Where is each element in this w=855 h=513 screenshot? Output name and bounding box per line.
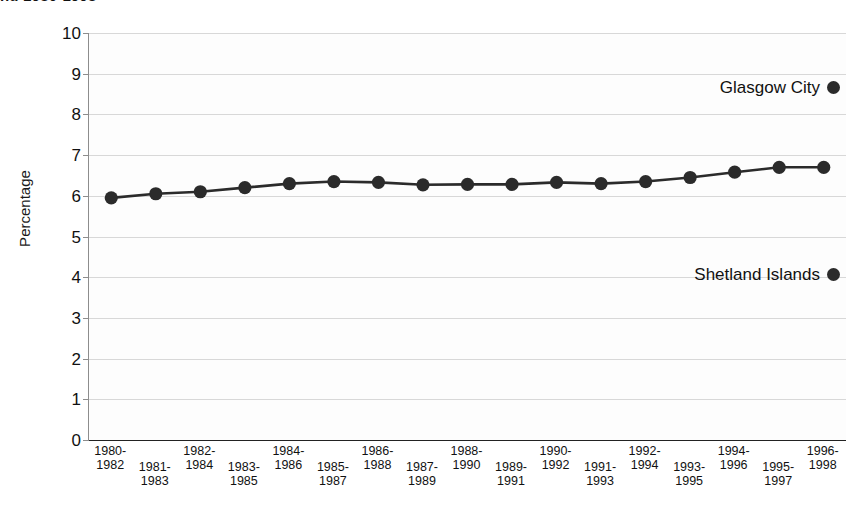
- data-point: [327, 175, 340, 188]
- data-point: [817, 161, 830, 174]
- y-tick-label: 2: [37, 350, 81, 370]
- x-tick-label: 1981-1983: [139, 461, 171, 488]
- data-point: [105, 191, 118, 204]
- y-tick-label: 7: [37, 146, 81, 166]
- y-tick-label: 9: [37, 65, 81, 85]
- y-tick-label: 10: [37, 24, 81, 44]
- x-tick-label: 1991-1993: [584, 461, 616, 488]
- x-tick-label: 1982-1984: [183, 445, 215, 472]
- y-tick-label: 3: [37, 309, 81, 329]
- legend-item-2[interactable]: Shetland Islands: [694, 266, 840, 283]
- legend-item-1[interactable]: Glasgow City: [720, 79, 840, 96]
- y-tick-label: 6: [37, 187, 81, 207]
- data-point: [372, 176, 385, 189]
- y-axis-title: Percentage: [16, 149, 33, 269]
- data-point: [238, 181, 251, 194]
- x-tick-label: 1994-1996: [718, 445, 750, 472]
- legend-label: Glasgow City: [720, 79, 820, 96]
- chart-title: nd 1980-1998: [0, 0, 97, 4]
- x-tick-label: 1989-1991: [495, 461, 527, 488]
- legend-marker-icon: [827, 81, 840, 94]
- data-point: [550, 176, 563, 189]
- data-point: [594, 177, 607, 190]
- x-tick-label: 1980-1982: [94, 445, 126, 472]
- data-point: [461, 178, 474, 191]
- data-point: [639, 175, 652, 188]
- x-tick-label: 1992-1994: [629, 445, 661, 472]
- y-tick-label: 1: [37, 390, 81, 410]
- x-tick-label: 1993-1995: [673, 461, 705, 488]
- data-point: [728, 166, 741, 179]
- x-tick-label: 1996-1998: [807, 445, 839, 472]
- legend-marker-icon: [827, 268, 840, 281]
- chart-container: nd 1980-1998 Percentage 012345678910 Gla…: [0, 0, 855, 513]
- y-tick-label: 8: [37, 105, 81, 125]
- x-tick-label: 1990-1992: [540, 445, 572, 472]
- data-point: [684, 171, 697, 184]
- data-point: [773, 161, 786, 174]
- x-tick-label: 1987-1989: [406, 461, 438, 488]
- x-tick-label: 1986-1988: [361, 445, 393, 472]
- plot-area: 012345678910 Glasgow CityShetland Island…: [88, 33, 846, 441]
- x-tick-label: 1985-1987: [317, 461, 349, 488]
- x-tick-label: 1995-1997: [762, 461, 794, 488]
- x-axis-labels: 1980-19821981-19831982-19841983-19851984…: [88, 441, 845, 511]
- y-tick-label: 5: [37, 228, 81, 248]
- data-point: [283, 177, 296, 190]
- legend-label: Shetland Islands: [694, 266, 820, 283]
- data-point: [505, 178, 518, 191]
- data-point: [194, 185, 207, 198]
- data-point: [149, 187, 162, 200]
- y-tick-label: 4: [37, 268, 81, 288]
- y-tick-label: 0: [37, 431, 81, 451]
- x-tick-label: 1984-1986: [272, 445, 304, 472]
- data-point: [416, 178, 429, 191]
- x-tick-label: 1988-1990: [451, 445, 483, 472]
- x-tick-label: 1983-1985: [228, 461, 260, 488]
